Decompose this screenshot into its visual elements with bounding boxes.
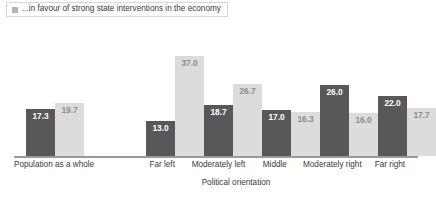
x-axis-line (14, 156, 418, 158)
x-tick-label: Moderately right (303, 160, 362, 169)
bar-light-moderately-left[interactable]: 26.7 (233, 84, 262, 157)
bar-wrap: 26.7 (233, 84, 262, 157)
bar-wrap: 16.3 (291, 112, 320, 156)
bar-value: 22.0 (378, 99, 407, 107)
bar-group-population-as-a-whole: 17.3 19.7 (14, 22, 146, 156)
bar-value: 16.0 (349, 116, 378, 124)
bar-dark-moderately-left[interactable]: 18.7 (204, 105, 233, 156)
bar-dark-moderately-right[interactable]: 26.0 (320, 85, 349, 156)
x-tick-far-right: Far right (362, 160, 418, 174)
x-tick-population-as-a-whole: Population as a whole (14, 160, 134, 174)
legend-label: ...in favour of strong state interventio… (22, 5, 221, 13)
chart-legend: ...in favour of strong state interventio… (6, 2, 228, 17)
bar-light-middle[interactable]: 16.3 (291, 112, 320, 156)
x-tick-moderately-left: Moderately left (190, 160, 246, 174)
bar-groups: 17.3 19.7 13.0 37.0 (14, 22, 418, 156)
bar-light-far-right[interactable]: 17.7 (407, 108, 436, 156)
x-axis-title-label: Political orientation (162, 178, 271, 187)
x-tick-label: Far right (375, 160, 405, 169)
plot-area: 17.3 19.7 13.0 37.0 (0, 22, 422, 158)
square-marker-icon (12, 7, 18, 13)
bar-value: 26.0 (320, 88, 349, 96)
bar-value: 17.3 (26, 112, 55, 120)
x-tick-label: Far left (149, 160, 174, 169)
bar-value: 13.0 (146, 124, 175, 132)
bar-group-far-left: 13.0 37.0 (146, 22, 204, 156)
bar-dark-population-as-a-whole[interactable]: 17.3 (26, 109, 55, 156)
x-axis-category-labels: Population as a whole Far left Moderatel… (14, 160, 418, 174)
bar-light-moderately-right[interactable]: 16.0 (349, 113, 378, 157)
x-tick-label: Population as a whole (14, 160, 94, 169)
x-axis-title: Political orientation (14, 179, 418, 187)
bar-wrap: 17.0 (262, 110, 291, 156)
bar-group-moderately-right: 26.0 16.0 (320, 22, 378, 156)
x-tick-label: Middle (263, 160, 287, 169)
bar-group-moderately-left: 18.7 26.7 (204, 22, 262, 156)
x-tick-middle: Middle (247, 160, 303, 174)
bar-wrap: 22.0 (378, 96, 407, 156)
bar-group-far-right: 22.0 17.7 (378, 22, 436, 156)
x-tick-label: Moderately left (192, 160, 246, 169)
bar-wrap: 16.0 (349, 113, 378, 157)
bar-dark-far-left[interactable]: 13.0 (146, 121, 175, 156)
bar-wrap: 13.0 (146, 121, 175, 156)
bar-value: 18.7 (204, 108, 233, 116)
bar-wrap: 26.0 (320, 85, 349, 156)
bar-group-middle: 17.0 16.3 (262, 22, 320, 156)
bar-dark-far-right[interactable]: 22.0 (378, 96, 407, 156)
bar-wrap: 18.7 (204, 105, 233, 156)
x-tick-moderately-right: Moderately right (303, 160, 362, 174)
bar-wrap: 17.3 (26, 109, 55, 156)
bar-value: 16.3 (291, 115, 320, 123)
bar-value: 26.7 (233, 87, 262, 95)
bar-value: 19.7 (55, 106, 84, 114)
bar-value: 37.0 (175, 59, 204, 67)
bar-wrap: 19.7 (55, 103, 84, 157)
bar-value: 17.0 (262, 113, 291, 121)
bar-value: 17.7 (407, 111, 436, 119)
bar-wrap: 37.0 (175, 56, 204, 157)
bar-dark-middle[interactable]: 17.0 (262, 110, 291, 156)
x-tick-far-left: Far left (134, 160, 190, 174)
bar-light-far-left[interactable]: 37.0 (175, 56, 204, 157)
bar-light-population-as-a-whole[interactable]: 19.7 (55, 103, 84, 157)
bar-wrap: 17.7 (407, 108, 436, 156)
